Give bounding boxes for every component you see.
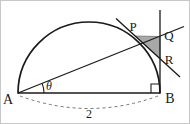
semicircle-arc (18, 22, 160, 93)
geometry-figure-svg: A B P Q R θ 2 (0, 0, 190, 124)
right-angle-marker-at-b (151, 84, 160, 93)
label-diameter-length: 2 (86, 107, 92, 121)
geometry-figure-container: A B P Q R θ 2 (0, 0, 190, 124)
label-vertex-a: A (3, 92, 14, 107)
label-vertex-b: B (165, 91, 174, 106)
label-point-p: P (129, 19, 136, 34)
angle-arc-theta (42, 83, 44, 93)
label-angle-theta: θ (46, 79, 52, 93)
label-point-q: Q (164, 28, 174, 43)
label-point-r: R (165, 52, 174, 67)
